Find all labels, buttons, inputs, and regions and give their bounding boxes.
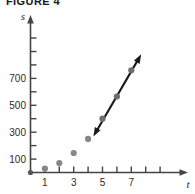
data-points [42,67,135,171]
y-axis-arrow-icon [27,15,34,24]
y-tick-label-500: 500 [9,100,26,111]
x-axis-ticks [45,167,160,173]
data-point [56,160,62,166]
data-point [114,93,120,99]
y-tick-label-700: 700 [9,73,26,84]
y-tick-label-300: 300 [9,127,26,138]
data-point [71,150,77,156]
x-tick-label-1: 1 [42,177,48,188]
x-axis-label: t [186,178,190,190]
y-axis-label: s [21,10,25,22]
x-axis-arrow-icon [180,169,189,176]
x-tick-label-3: 3 [71,177,77,188]
x-tick-label-5: 5 [100,177,106,188]
scatter-plot: 100 300 500 700 1 3 5 7 s t [0,0,195,194]
figure-container: FIGURE 4 [0,0,195,194]
x-tick-label-7: 7 [129,177,135,188]
data-point [42,165,48,171]
secant-arrow-down-icon [93,127,100,137]
secant-arrow-up-icon [134,54,141,64]
origin-marker [28,170,33,175]
y-tick-label-100: 100 [9,154,26,165]
data-point [85,136,91,142]
data-point [128,67,134,73]
data-point [99,116,105,122]
y-axis-ticks [31,38,37,159]
